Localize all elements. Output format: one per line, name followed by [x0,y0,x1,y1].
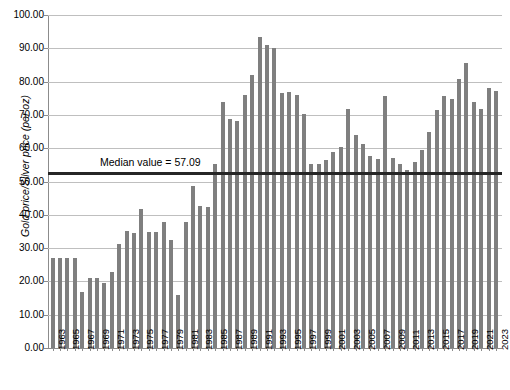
x-tick-label: 1973 [131,329,141,350]
bar [405,170,409,348]
bar [221,102,225,348]
bar [324,160,328,348]
x-tick-label: 1969 [101,329,111,350]
y-tick-label: 90.00 [0,43,44,53]
bar [494,91,498,348]
x-tick-mark [60,348,61,351]
x-tick-mark [97,348,98,351]
bar [272,48,276,348]
x-tick-label: 2017 [456,329,466,350]
y-tick-label: 40.00 [0,210,44,220]
x-tick-mark [311,348,312,351]
x-tick-mark [75,348,76,351]
bar [479,109,483,348]
bar [354,135,358,348]
x-tick-mark [193,348,194,351]
bar [243,95,247,348]
x-tick-mark [444,348,445,351]
x-tick-mark [260,348,261,351]
x-tick-mark [466,348,467,351]
x-tick-mark [82,348,83,351]
x-tick-mark [356,348,357,351]
x-tick-mark [208,348,209,351]
x-tick-label: 2003 [352,329,362,350]
bar [265,45,269,348]
bar [368,156,372,348]
plot-area [48,15,502,348]
bar [472,102,476,348]
x-tick-mark [489,348,490,351]
x-tick-mark [112,348,113,351]
x-tick-mark [348,348,349,351]
x-tick-label: 1963 [57,329,67,350]
bar [442,96,446,348]
x-tick-label: 1977 [160,329,170,350]
bar [213,164,217,348]
x-tick-mark [370,348,371,351]
x-tick-label: 1975 [145,329,155,350]
x-tick-mark [378,348,379,351]
x-tick-mark [90,348,91,351]
bar [191,186,195,348]
bar [206,207,210,348]
x-tick-label: 1995 [293,329,303,350]
x-tick-mark [333,348,334,351]
x-tick-mark [267,348,268,351]
bar [346,109,350,348]
x-tick-mark [141,348,142,351]
x-tick-mark [481,348,482,351]
x-tick-mark [252,348,253,351]
x-tick-mark [363,348,364,351]
x-tick-label: 1991 [264,329,274,350]
bar [228,119,232,348]
bar [258,37,262,348]
bar [51,258,55,348]
bars-layer [48,15,502,348]
bar [376,159,380,348]
x-tick-label: 2015 [441,329,451,350]
x-tick-mark [200,348,201,351]
bar [398,164,402,348]
x-tick-label: 1965 [71,329,81,350]
x-tick-label: 1971 [116,329,126,350]
y-tick-label: 100.00 [0,10,44,20]
y-tick-label: 60.00 [0,143,44,153]
x-tick-label: 2021 [485,329,495,350]
bar [383,96,387,348]
y-tick-label: 80.00 [0,77,44,87]
x-axis-labels: 1963196519671969197119731975197719791981… [48,350,502,390]
bar [235,121,239,348]
x-tick-label: 1981 [190,329,200,350]
x-tick-mark [289,348,290,351]
y-tick-label: 30.00 [0,243,44,253]
x-tick-mark [393,348,394,351]
bar [198,206,202,348]
x-tick-mark [326,348,327,351]
x-tick-mark [459,348,460,351]
bar [139,209,143,348]
x-tick-mark [149,348,150,351]
bar [391,158,395,348]
x-tick-mark [164,348,165,351]
x-tick-label: 2005 [367,329,377,350]
bar [295,95,299,348]
bar [450,99,454,348]
x-tick-label: 2023 [500,329,510,350]
bar [435,110,439,348]
x-tick-mark [230,348,231,351]
x-tick-mark [385,348,386,351]
bar [457,79,461,348]
bar [464,63,468,348]
bar [280,93,284,348]
x-tick-mark [156,348,157,351]
x-tick-label: 2009 [397,329,407,350]
x-tick-mark [245,348,246,351]
x-tick-label: 2011 [411,330,421,350]
y-tick-label: 70.00 [0,110,44,120]
bar [413,162,417,348]
bar [487,88,491,348]
x-tick-mark [407,348,408,351]
x-tick-mark [437,348,438,351]
x-tick-mark [429,348,430,351]
